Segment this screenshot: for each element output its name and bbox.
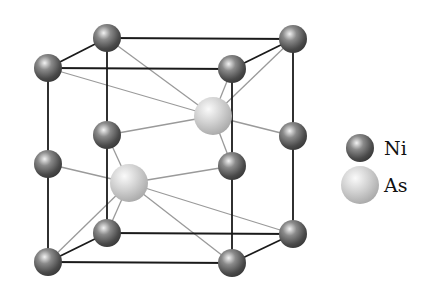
ni-atoms-front — [34, 54, 246, 277]
legend-item-ni: Ni — [346, 134, 407, 162]
ni-legend-swatch — [346, 134, 374, 162]
ni-atom — [218, 249, 246, 277]
as-atom-upper — [194, 97, 232, 135]
ni-atoms — [93, 24, 307, 248]
nias-crystal-structure-diagram: Ni As — [0, 0, 439, 297]
ni-atom — [218, 55, 246, 83]
ni-atom — [279, 220, 307, 248]
as-legend-swatch — [341, 166, 379, 204]
as-legend-label: As — [383, 174, 407, 196]
ni-atom — [34, 54, 62, 82]
ni-atom — [93, 219, 121, 247]
ni-atom — [279, 122, 307, 150]
ni-atom — [218, 152, 246, 180]
ni-legend-label: Ni — [384, 137, 407, 159]
ni-atom — [34, 150, 62, 178]
as-bonds — [48, 38, 293, 263]
as-atoms — [110, 97, 232, 202]
ni-atom — [93, 24, 121, 52]
legend: Ni As — [341, 134, 407, 204]
as-atom-lower — [110, 164, 148, 202]
unit-cell-edges — [48, 38, 293, 263]
ni-atom — [34, 248, 62, 276]
ni-atom — [93, 121, 121, 149]
ni-atom — [279, 25, 307, 53]
legend-item-as: As — [341, 166, 407, 204]
